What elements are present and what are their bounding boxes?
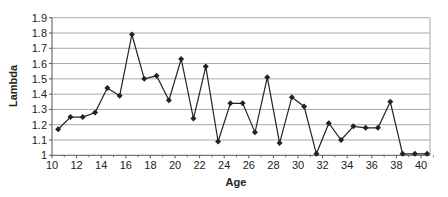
diamond-marker <box>215 139 221 145</box>
diamond-marker <box>363 125 369 131</box>
x-tick-label: 38 <box>390 159 402 171</box>
diamond-marker <box>252 129 258 135</box>
diamond-marker <box>400 151 406 157</box>
diamond-marker <box>264 74 270 80</box>
x-tick-label: 34 <box>341 159 353 171</box>
x-tick-label: 30 <box>292 159 304 171</box>
diamond-marker <box>129 32 135 38</box>
diamond-marker <box>240 100 246 106</box>
diamond-marker <box>375 125 381 131</box>
x-tick-label: 18 <box>144 159 156 171</box>
y-tick-label: 1.1 <box>32 134 47 146</box>
x-axis-tick-labels: 10121416182022242628303234363840 <box>46 159 427 171</box>
x-tick-label: 40 <box>415 159 427 171</box>
x-tick-label: 16 <box>120 159 132 171</box>
diamond-marker <box>104 85 110 91</box>
x-tick-label: 12 <box>70 159 82 171</box>
x-tick-label: 14 <box>95 159 107 171</box>
diamond-marker <box>313 151 319 157</box>
diamond-marker <box>277 140 283 146</box>
x-tick-label: 24 <box>218 159 230 171</box>
diamond-marker <box>117 93 123 99</box>
y-tick-label: 1.2 <box>32 119 47 131</box>
diamond-marker <box>141 76 147 82</box>
x-tick-label: 28 <box>267 159 279 171</box>
y-tick-label: 1.5 <box>32 73 47 85</box>
diamond-marker <box>190 116 196 122</box>
x-tick-label: 22 <box>193 159 205 171</box>
diamond-marker <box>227 100 233 106</box>
x-tick-label: 36 <box>366 159 378 171</box>
diamond-marker <box>154 73 160 79</box>
diamond-marker <box>80 114 86 120</box>
y-axis-title: Lambda <box>7 64 19 107</box>
x-tick-label: 20 <box>169 159 181 171</box>
diamond-marker <box>166 97 172 103</box>
x-tick-label: 32 <box>316 159 328 171</box>
line-chart: 11.11.21.31.41.51.61.71.81.9 10121416182… <box>0 0 448 197</box>
diamond-marker <box>92 109 98 115</box>
gridlines <box>52 18 430 140</box>
x-tick-label: 10 <box>46 159 58 171</box>
y-tick-label: 1.6 <box>32 58 47 70</box>
y-tick-label: 1.8 <box>32 27 47 39</box>
diamond-marker <box>387 99 393 105</box>
diamond-marker <box>424 151 430 157</box>
y-axis-tick-labels: 11.11.21.31.41.51.61.71.81.9 <box>32 12 47 162</box>
y-tick-label: 1.7 <box>32 42 47 54</box>
y-tick-label: 1.3 <box>32 103 47 115</box>
y-tick-label: 1.4 <box>32 88 47 100</box>
x-tick-label: 26 <box>243 159 255 171</box>
diamond-marker <box>412 151 418 157</box>
x-axis-title: Age <box>226 176 247 188</box>
y-tick-label: 1.9 <box>32 12 47 24</box>
diamond-marker <box>178 56 184 62</box>
diamond-marker <box>203 64 209 70</box>
